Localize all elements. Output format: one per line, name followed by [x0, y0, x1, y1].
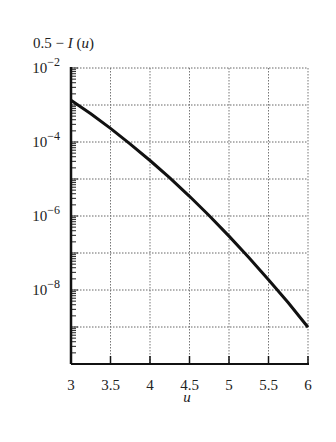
x-tick-label: 5 — [225, 377, 233, 393]
y-tick-label: 10−6 — [32, 203, 60, 224]
x-tick-label: 5.5 — [259, 377, 278, 393]
x-tick-label: 4 — [146, 377, 154, 393]
x-tick-label: 3 — [67, 377, 75, 393]
x-tick-label: 3.5 — [101, 377, 120, 393]
x-tick-label: 6 — [304, 377, 312, 393]
y-tick-label: 10−4 — [32, 129, 60, 150]
y-tick-labels: 10−210−410−610−8 — [32, 55, 60, 298]
y-tick-label: 10−2 — [32, 55, 60, 76]
y-axis-label: 0.5 − I (u) — [33, 35, 94, 52]
y-tick-label: 10−8 — [32, 277, 60, 298]
x-axis-label: u — [183, 389, 191, 405]
grid — [71, 68, 308, 364]
chart: 0.5 − I (u) 10−210−410−610−8 33.544.555.… — [0, 0, 336, 442]
